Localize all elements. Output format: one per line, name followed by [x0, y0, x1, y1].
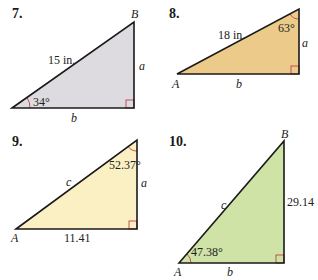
vertical-side-label: a: [141, 176, 147, 190]
hypotenuse-label: c: [221, 198, 227, 212]
angle-label: 52.37°: [109, 158, 141, 172]
problem-number: 8.: [169, 6, 180, 21]
hypotenuse-label: 18 in.: [218, 28, 245, 42]
problem-9: 9. 52.37° c a A 11.41: [10, 134, 147, 245]
horizontal-side-label: 11.41: [64, 231, 91, 245]
horizontal-side-label: b: [227, 265, 233, 279]
vertical-side-label: a: [139, 59, 145, 73]
problem-number: 9.: [12, 134, 23, 149]
problem-number: 7.: [12, 6, 23, 21]
angle-label: 34°: [33, 95, 50, 109]
exercise-figures: 7. B 15 in. a b 34° 8. 18 in. 63° a A b …: [0, 0, 318, 280]
problem-7: 7. B 15 in. a b 34°: [12, 6, 145, 125]
problem-number: 10.: [169, 134, 187, 149]
vertex-label-b: B: [281, 127, 289, 141]
vertical-side-label: 29.14: [287, 195, 314, 209]
horizontal-side-label: b: [236, 77, 242, 91]
angle-label: 47.38°: [191, 245, 223, 259]
vertex-label-b: B: [131, 7, 139, 21]
hypotenuse-label: c: [66, 175, 72, 189]
vertex-label-a: A: [171, 77, 180, 91]
problem-10: 10. B c 29.14 47.38° A b: [169, 127, 314, 279]
problem-8: 8. 18 in. 63° a A b: [169, 6, 308, 91]
vertex-label-a: A: [173, 265, 182, 279]
vertical-side-label: a: [302, 36, 308, 50]
angle-label: 63°: [278, 21, 295, 35]
hypotenuse-label: 15 in.: [48, 53, 75, 67]
vertex-label-a: A: [10, 231, 19, 245]
horizontal-side-label: b: [71, 111, 77, 125]
